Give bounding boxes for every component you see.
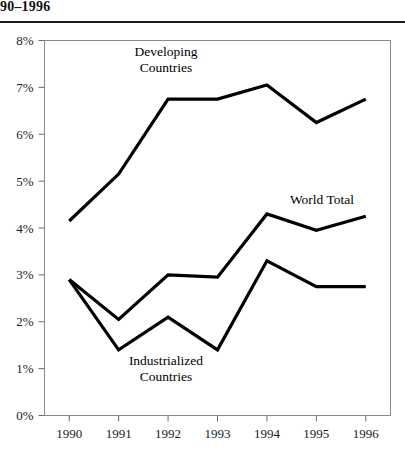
y-axis-labels: 0%1%2%3%4%5%6%7%8% — [16, 33, 34, 423]
y-axis-ticks — [39, 41, 45, 416]
x-tick-label: 1992 — [155, 426, 181, 441]
y-tick-label: 3% — [16, 267, 34, 282]
y-tick-label: 4% — [16, 221, 34, 236]
line-chart: 0%1%2%3%4%5%6%7%8% 199019911992199319941… — [0, 24, 405, 449]
series-label-industrialized-line1: Industrialized — [129, 353, 203, 368]
page-title: 90–1996 — [0, 0, 405, 19]
x-tick-label: 1990 — [56, 426, 82, 441]
x-axis-ticks — [69, 416, 366, 422]
series-label-developing-line1: Developing — [135, 44, 198, 59]
y-tick-label: 0% — [16, 408, 34, 423]
y-tick-label: 6% — [16, 127, 34, 142]
y-tick-label: 8% — [16, 33, 34, 48]
x-tick-label: 1991 — [106, 426, 132, 441]
x-tick-label: 1995 — [303, 426, 329, 441]
x-axis-labels: 1990199119921993199419951996 — [56, 426, 379, 441]
series-label-industrialized-line2: Countries — [140, 369, 193, 384]
y-tick-label: 5% — [16, 174, 34, 189]
y-tick-label: 7% — [16, 80, 34, 95]
plot-frame — [45, 41, 391, 416]
x-tick-label: 1996 — [353, 426, 380, 441]
title-divider — [0, 21, 405, 23]
series-line-world-total — [69, 214, 366, 319]
x-tick-label: 1994 — [254, 426, 281, 441]
chart-container: 0%1%2%3%4%5%6%7%8% 199019911992199319941… — [0, 24, 405, 449]
series-label-world-total: World Total — [290, 192, 354, 207]
series-group — [69, 85, 366, 350]
series-line-industrialized-countries — [69, 261, 366, 350]
y-tick-label: 1% — [16, 361, 34, 376]
y-tick-label: 2% — [16, 314, 34, 329]
series-label-developing-line2: Countries — [140, 60, 193, 75]
x-tick-label: 1993 — [205, 426, 231, 441]
